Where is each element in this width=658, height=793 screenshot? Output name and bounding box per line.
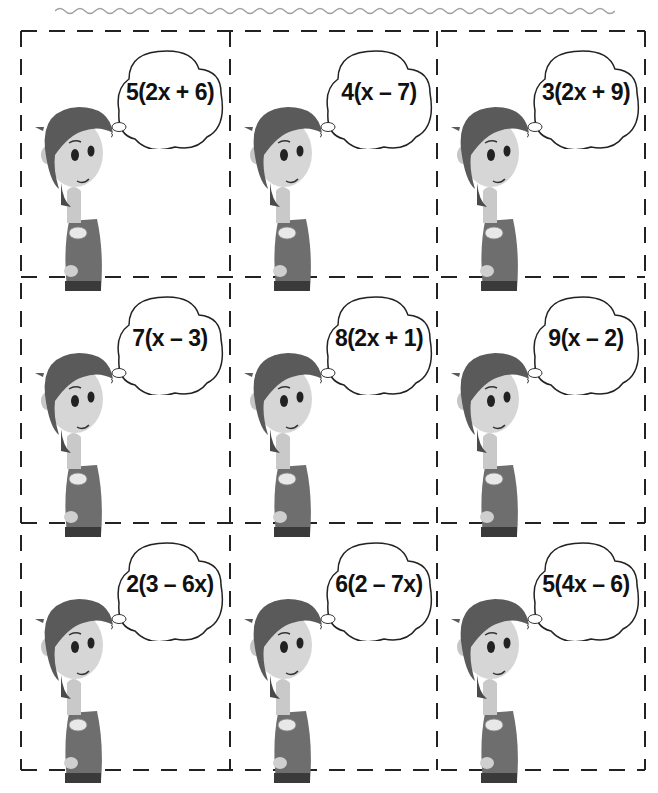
card-3: 3(2x + 9) — [437, 31, 645, 277]
card-9: 5(4x – 6) — [437, 523, 645, 770]
expression-label: 5(4x – 6) — [527, 571, 645, 598]
thinking-boy-illustration — [31, 337, 121, 537]
thinking-boy-illustration — [447, 91, 537, 291]
expression-label: 7(x – 3) — [111, 325, 229, 352]
thinking-boy-illustration — [447, 337, 537, 537]
expression-label: 5(2x + 6) — [111, 79, 229, 106]
expression-label: 3(2x + 9) — [527, 79, 645, 106]
card-7: 2(3 – 6x) — [21, 523, 230, 770]
thinking-boy-illustration — [240, 337, 330, 537]
card-5: 8(2x + 1) — [230, 277, 437, 523]
thinking-boy-illustration — [31, 91, 121, 291]
card-8: 6(2 – 7x) — [230, 523, 437, 770]
expression-label: 6(2 – 7x) — [320, 571, 438, 598]
expression-label: 8(2x + 1) — [320, 325, 438, 352]
card-6: 9(x – 2) — [437, 277, 645, 523]
card-2: 4(x – 7) — [230, 31, 437, 277]
thinking-boy-illustration — [31, 583, 121, 783]
thinking-boy-illustration — [240, 91, 330, 291]
thinking-boy-illustration — [447, 583, 537, 783]
card-1: 5(2x + 6) — [21, 31, 230, 277]
card-4: 7(x – 3) — [21, 277, 230, 523]
expression-label: 4(x – 7) — [320, 79, 438, 106]
expression-label: 2(3 – 6x) — [111, 571, 229, 598]
thinking-boy-illustration — [240, 583, 330, 783]
expression-label: 9(x – 2) — [527, 325, 645, 352]
